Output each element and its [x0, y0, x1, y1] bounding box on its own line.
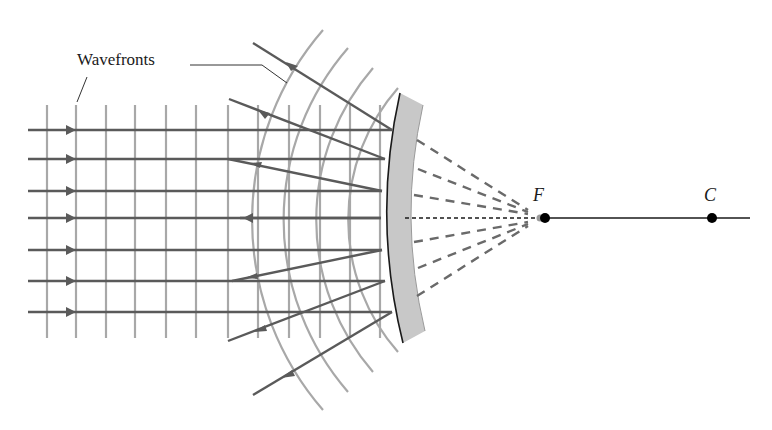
incoming-ray-arrows — [66, 125, 76, 317]
wavefronts-label: Wavefronts — [77, 50, 155, 70]
wavefronts-leader-line-left — [77, 77, 87, 102]
center-of-curvature-point — [707, 213, 717, 223]
focal-point-label: F — [533, 185, 544, 206]
incoming-rays — [28, 130, 392, 312]
center-of-curvature-label: C — [704, 185, 716, 206]
focal-point — [540, 213, 550, 223]
wavefronts-leader-line — [190, 65, 287, 83]
